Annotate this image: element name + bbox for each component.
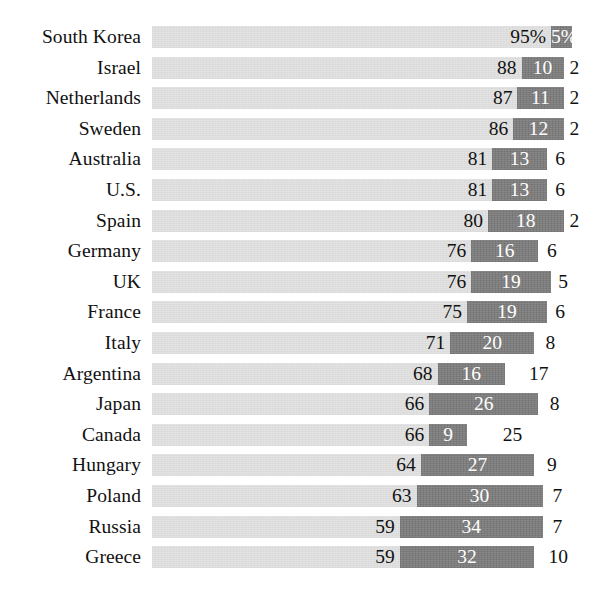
- category-label: Japan: [0, 389, 141, 419]
- bar-track: 66268: [152, 393, 572, 415]
- chart-row: Argentina681617: [0, 359, 596, 389]
- chart-row: Italy71208: [0, 328, 596, 358]
- value-label-b: 19: [471, 271, 551, 293]
- chart-row: Hungary64279: [0, 450, 596, 480]
- value-label-a: 63: [152, 485, 412, 507]
- value-label-a: 76: [152, 240, 466, 262]
- bar-track: 95%5%: [152, 26, 572, 48]
- category-label: Argentina: [0, 359, 141, 389]
- value-label-c: 5: [558, 271, 596, 293]
- category-label: Germany: [0, 236, 141, 266]
- bar-track: 81136: [152, 179, 572, 201]
- chart-row: Sweden86122: [0, 114, 596, 144]
- value-label-a: 66: [152, 393, 424, 415]
- bar-track: 63307: [152, 485, 572, 507]
- chart-row: South Korea95%5%: [0, 22, 596, 52]
- value-label-a: 81: [152, 148, 487, 170]
- category-label: Hungary: [0, 450, 141, 480]
- value-label-a: 75: [152, 301, 462, 323]
- value-label-a: 80: [152, 210, 483, 232]
- value-label-b: 27: [421, 454, 534, 476]
- category-label: Poland: [0, 481, 141, 511]
- value-label-a: 66: [152, 424, 424, 446]
- value-label-b: 32: [400, 546, 534, 568]
- category-label: Sweden: [0, 114, 141, 144]
- category-label: U.S.: [0, 175, 141, 205]
- category-label: Australia: [0, 144, 141, 174]
- bar-track: 64279: [152, 454, 572, 476]
- value-label-c: 6: [555, 148, 595, 170]
- chart-row: Spain80182: [0, 206, 596, 236]
- bar-track: 59347: [152, 516, 572, 538]
- category-label: France: [0, 297, 141, 327]
- bar-track: 86122: [152, 118, 572, 140]
- chart-row: UK76195: [0, 267, 596, 297]
- category-label: Netherlands: [0, 83, 141, 113]
- value-label-b: 16: [471, 240, 538, 262]
- value-label-c: 17: [529, 363, 569, 385]
- chart-row: Israel88102: [0, 53, 596, 83]
- value-label-c: 7: [553, 485, 593, 507]
- category-label: Russia: [0, 512, 141, 542]
- chart-row: France75196: [0, 297, 596, 327]
- value-label-b: 13: [492, 148, 547, 170]
- value-label-b: 11: [517, 87, 563, 109]
- value-label-b: 19: [467, 301, 547, 323]
- bar-track: 76166: [152, 240, 572, 262]
- value-label-b: 13: [492, 179, 547, 201]
- value-label-c: 9: [547, 454, 587, 476]
- stacked-bar-chart: South Korea95%5%Israel88102Netherlands87…: [0, 0, 596, 615]
- bar-track: 66925: [152, 424, 572, 446]
- chart-row: Greece593210: [0, 542, 596, 572]
- bar-track: 81136: [152, 148, 572, 170]
- value-label-b: 18: [488, 210, 564, 232]
- chart-row: Canada66925: [0, 420, 596, 450]
- value-label-c: 2: [570, 118, 596, 140]
- value-label-b: 20: [450, 332, 534, 354]
- value-label-b: 12: [513, 118, 563, 140]
- value-label-b: 9: [429, 424, 467, 446]
- chart-row: Australia81136: [0, 144, 596, 174]
- category-label: Canada: [0, 420, 141, 450]
- value-label-a: 81: [152, 179, 487, 201]
- chart-row: Netherlands87112: [0, 83, 596, 113]
- chart-row: U.S.81136: [0, 175, 596, 205]
- value-label-a: 64: [152, 454, 416, 476]
- value-label-a: 88: [152, 57, 517, 79]
- chart-row: Japan66268: [0, 389, 596, 419]
- bar-track: 75196: [152, 301, 572, 323]
- chart-row: Poland63307: [0, 481, 596, 511]
- value-label-a: 71: [152, 332, 445, 354]
- value-label-c: 6: [547, 240, 587, 262]
- chart-row: Russia59347: [0, 512, 596, 542]
- value-label-a: 59: [152, 516, 395, 538]
- category-label: Spain: [0, 206, 141, 236]
- chart-row: Germany76166: [0, 236, 596, 266]
- value-label-a: 76: [152, 271, 466, 293]
- value-label-c: 2: [570, 57, 596, 79]
- value-label-c: 8: [550, 393, 590, 415]
- category-label: Israel: [0, 53, 141, 83]
- value-label-a: 68: [152, 363, 433, 385]
- category-label: Italy: [0, 328, 141, 358]
- value-label-a: 95%: [152, 26, 546, 48]
- value-label-a: 87: [152, 87, 512, 109]
- bar-track: 681617: [152, 363, 572, 385]
- category-label: South Korea: [0, 22, 141, 52]
- bar-track: 76195: [152, 271, 572, 293]
- category-label: Greece: [0, 542, 141, 572]
- category-label: UK: [0, 267, 141, 297]
- value-label-c: 25: [503, 424, 543, 446]
- value-label-c: 7: [553, 516, 593, 538]
- value-label-b: 16: [438, 363, 505, 385]
- value-label-b: 5%: [551, 26, 572, 48]
- bar-track: 593210: [152, 546, 572, 568]
- value-label-a: 86: [152, 118, 508, 140]
- value-label-c: 6: [555, 179, 595, 201]
- bar-track: 71208: [152, 332, 572, 354]
- value-label-c: 2: [570, 87, 596, 109]
- value-label-c: 8: [546, 332, 586, 354]
- value-label-b: 26: [429, 393, 538, 415]
- bar-track: 80182: [152, 210, 572, 232]
- bar-track: 88102: [152, 57, 572, 79]
